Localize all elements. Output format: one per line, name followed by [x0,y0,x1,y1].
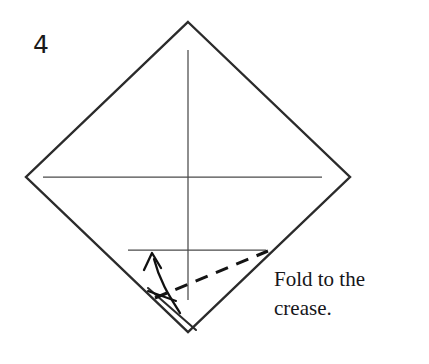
valley-fold-dashed-line [155,251,268,298]
instruction-caption: Fold to the crease. [274,265,424,323]
origami-instruction-figure: 4 Fold to the crease. [0,0,429,364]
fold-arrow-head [144,253,161,270]
step-number-label: 4 [33,32,49,57]
